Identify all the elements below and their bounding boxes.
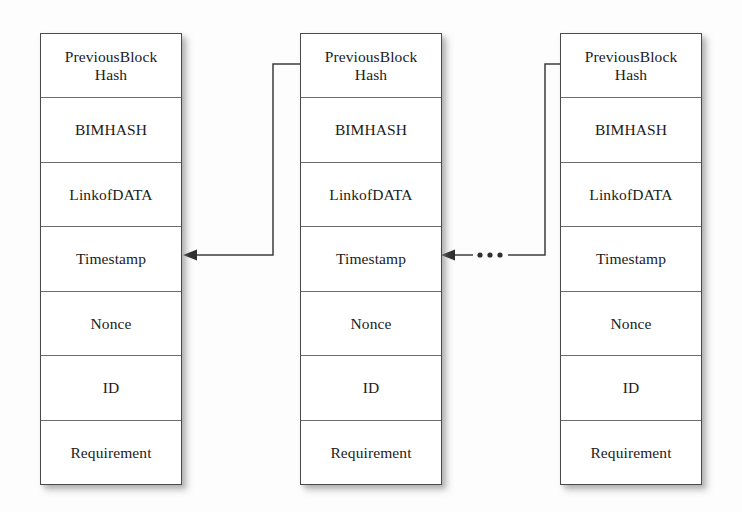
- block-3-field-bim-hash: BIMHASH: [561, 98, 701, 162]
- block-2[interactable]: PreviousBlock Hash BIMHASH LinkofDATA Ti…: [300, 33, 442, 485]
- block-3-field-requirement: Requirement: [561, 421, 701, 484]
- block-3-field-timestamp: Timestamp: [561, 227, 701, 291]
- block-3-previous-block-hash-line1: PreviousBlock: [585, 48, 678, 65]
- blockchain-diagram-canvas: PreviousBlock Hash BIMHASH LinkofDATA Ti…: [0, 0, 742, 512]
- block-1-field-previous-block-hash: PreviousBlock Hash: [41, 34, 181, 98]
- block-2-field-link-of-data: LinkofDATA: [301, 163, 441, 227]
- block-3-field-previous-block-hash: PreviousBlock Hash: [561, 34, 701, 98]
- connector-block3-to-block2-line-right: [508, 64, 560, 255]
- connector-block2-to-block1: [183, 64, 300, 261]
- block-1-field-requirement: Requirement: [41, 421, 181, 484]
- ellipsis-dot-3: [497, 252, 502, 257]
- block-1-previous-block-hash-line2: Hash: [65, 66, 158, 83]
- ellipsis-dot-1: [477, 252, 482, 257]
- block-2-field-nonce: Nonce: [301, 292, 441, 356]
- ellipsis-dot-2: [487, 252, 492, 257]
- block-3-field-nonce: Nonce: [561, 292, 701, 356]
- block-2-field-requirement: Requirement: [301, 421, 441, 484]
- connector-block2-to-block1-arrowhead: [183, 250, 197, 261]
- block-1-previous-block-hash-line1: PreviousBlock: [65, 48, 158, 65]
- block-3-field-link-of-data: LinkofDATA: [561, 163, 701, 227]
- chain-continuation-ellipsis: [477, 252, 502, 257]
- block-1-field-timestamp: Timestamp: [41, 227, 181, 291]
- block-2-previous-block-hash-line2: Hash: [325, 66, 418, 83]
- connector-block2-to-block1-line: [192, 64, 300, 255]
- block-2-field-previous-block-hash: PreviousBlock Hash: [301, 34, 441, 98]
- block-1-field-id: ID: [41, 356, 181, 420]
- block-3-field-id: ID: [561, 356, 701, 420]
- block-3-previous-block-hash-line2: Hash: [585, 66, 678, 83]
- block-1-field-link-of-data: LinkofDATA: [41, 163, 181, 227]
- connector-block3-to-block2: [441, 64, 560, 261]
- block-2-field-timestamp: Timestamp: [301, 227, 441, 291]
- block-1-field-nonce: Nonce: [41, 292, 181, 356]
- block-2-field-id: ID: [301, 356, 441, 420]
- block-2-field-bim-hash: BIMHASH: [301, 98, 441, 162]
- block-1-field-bim-hash: BIMHASH: [41, 98, 181, 162]
- block-1[interactable]: PreviousBlock Hash BIMHASH LinkofDATA Ti…: [40, 33, 182, 485]
- block-3[interactable]: PreviousBlock Hash BIMHASH LinkofDATA Ti…: [560, 33, 702, 485]
- connector-block3-to-block2-arrowhead: [441, 250, 455, 261]
- block-2-previous-block-hash-line1: PreviousBlock: [325, 48, 418, 65]
